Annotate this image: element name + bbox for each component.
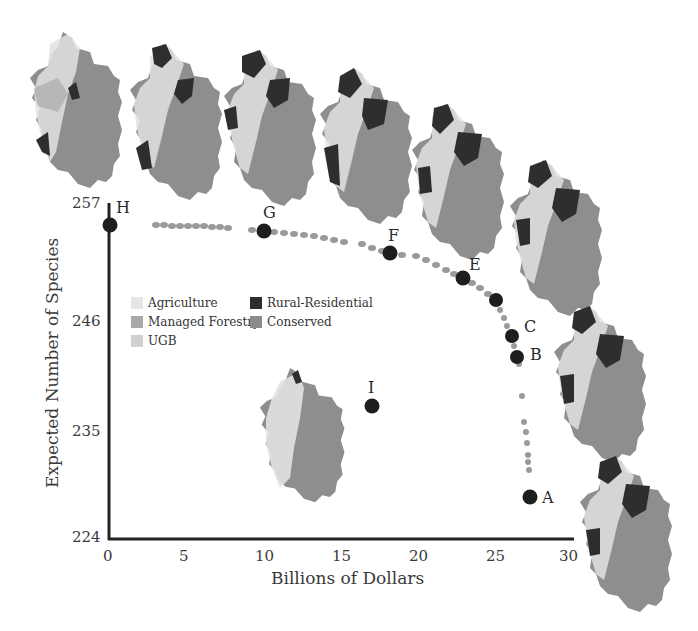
legend-ugb: UGB [131,334,177,348]
x-tick-10: 10 [255,547,274,565]
x-tick-20: 20 [409,547,428,565]
point-h [103,218,118,233]
x-tick-5: 5 [179,547,189,565]
map-scenario-b [554,306,646,462]
land-use-map-thumbnails [0,0,698,631]
map-scenario-unlabeled [510,160,602,316]
legend-managed-forestry: Managed Forestry [131,315,260,329]
point-a [523,490,538,505]
point-g [257,224,272,239]
label-c: C [524,317,536,336]
chart-axes [108,203,574,540]
x-tick-25: 25 [486,547,505,565]
point-f [383,246,398,261]
map-scenario-i [260,368,345,502]
y-tick-224: 224 [72,528,101,546]
label-g: G [263,203,276,222]
label-e: E [469,255,481,274]
ugb-swatch [131,335,143,347]
map-scenario-e [412,104,504,260]
managed-forestry-swatch [131,316,143,328]
map-scenario-g [130,44,222,200]
agriculture-swatch [131,297,143,309]
y-tick-257: 257 [72,194,101,212]
label-b: B [530,345,542,364]
point-unlabeled [489,293,503,307]
x-tick-15: 15 [332,547,351,565]
rural-residential-swatch [250,297,262,309]
x-axis-title: Billions of Dollars [271,568,424,588]
legend-rural-residential: Rural-Residential [250,296,373,310]
map-scenario-a [580,456,672,612]
label-a: A [542,488,554,507]
label-h: H [116,198,130,217]
x-tick-0: 0 [103,547,113,565]
label-i: I [368,378,374,397]
y-tick-235: 235 [72,422,101,440]
point-b [510,350,524,364]
conserved-swatch [250,316,262,328]
point-i [365,399,380,414]
map-scenario-f [320,68,412,224]
legend-conserved: Conserved [250,315,332,329]
label-f: F [388,226,399,245]
legend-agriculture: Agriculture [131,296,218,310]
x-tick-30: 30 [559,547,578,565]
map-scenario-g2 [224,50,316,206]
point-c [505,329,519,343]
y-tick-246: 246 [72,312,101,330]
y-axis-title: Expected Number of Species [42,238,62,488]
map-scenario-h [30,32,122,188]
